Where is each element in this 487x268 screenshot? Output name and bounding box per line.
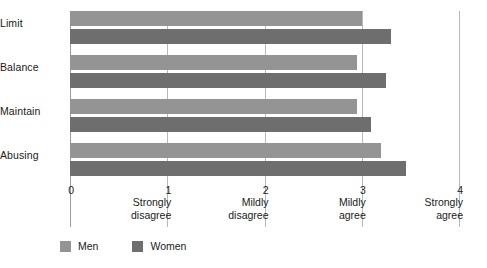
x-tick-0: 0 bbox=[0, 184, 74, 196]
plot-area bbox=[70, 11, 459, 183]
bar-maintain-men bbox=[70, 99, 357, 114]
x-tick-caption-line2-1: disagree bbox=[93, 209, 171, 221]
legend-swatch-men-icon bbox=[60, 241, 71, 252]
category-label-balance: Balance bbox=[0, 61, 64, 73]
bar-balance-men bbox=[70, 55, 357, 70]
x-tick-caption-line1-4: Strongly bbox=[385, 196, 463, 208]
x-tick-number-2: 2 bbox=[191, 184, 269, 196]
x-tick-caption-line1-3: Mildly bbox=[288, 196, 366, 208]
bar-chart: LimitBalanceMaintainAbusing 01Stronglydi… bbox=[0, 0, 487, 268]
legend-swatch-women-icon bbox=[132, 241, 143, 252]
x-tick-caption-line2-4: agree bbox=[385, 209, 463, 221]
bar-maintain-women bbox=[70, 117, 371, 132]
legend-label-men: Men bbox=[78, 240, 98, 252]
legend-label-women: Women bbox=[150, 240, 186, 252]
legend-item-women[interactable]: Women bbox=[132, 240, 186, 252]
bar-balance-women bbox=[70, 73, 386, 88]
category-label-limit: Limit bbox=[0, 17, 64, 29]
chart-legend: MenWomen bbox=[60, 240, 220, 252]
category-label-maintain: Maintain bbox=[0, 105, 64, 117]
x-tick-1: 1Stronglydisagree bbox=[93, 184, 171, 221]
x-tick-number-0: 0 bbox=[0, 184, 74, 196]
x-tick-caption-line2-2: disagree bbox=[191, 209, 269, 221]
x-tick-number-1: 1 bbox=[93, 184, 171, 196]
x-tick-caption-line1-2: Mildly bbox=[191, 196, 269, 208]
x-tick-4: 4Stronglyagree bbox=[385, 184, 463, 221]
x-tick-3: 3Mildlyagree bbox=[288, 184, 366, 221]
legend-item-men[interactable]: Men bbox=[60, 240, 98, 252]
bar-abusing-men bbox=[70, 143, 381, 158]
category-label-abusing: Abusing bbox=[0, 149, 64, 161]
x-tick-caption-line2-3: agree bbox=[288, 209, 366, 221]
x-tick-caption-line1-1: Strongly bbox=[93, 196, 171, 208]
x-tick-number-3: 3 bbox=[288, 184, 366, 196]
bar-abusing-women bbox=[70, 161, 406, 176]
x-tick-2: 2Mildlydisagree bbox=[191, 184, 269, 221]
x-tick-number-4: 4 bbox=[385, 184, 463, 196]
bar-limit-women bbox=[70, 29, 391, 44]
bar-limit-men bbox=[70, 11, 362, 26]
